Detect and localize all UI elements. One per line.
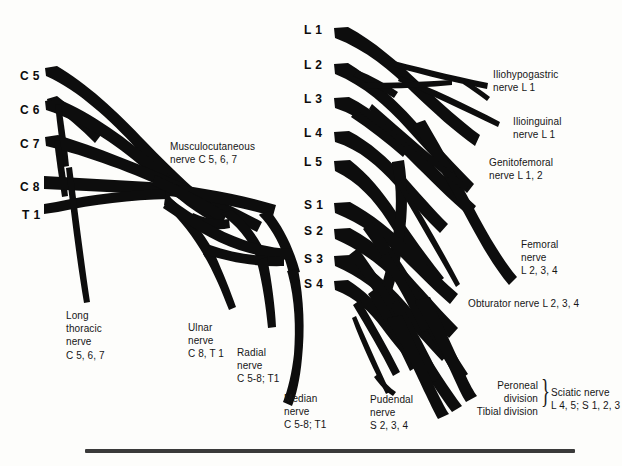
root-label-l5: L 5 (304, 155, 322, 169)
nerve-label-obturator: Obturator nerve L 2, 3, 4 (468, 297, 579, 310)
sciatic-tibial-division-label: Tibial division (444, 405, 538, 418)
nerve-label-iliohypogastric: Iliohypogastricnerve L 1 (493, 68, 558, 94)
sciatic-brace-icon: } (541, 374, 550, 408)
nerve-label-ilioinguinal: Ilioinguinalnerve L 1 (513, 115, 561, 141)
root-label-l2: L 2 (304, 58, 322, 72)
root-label-s3: S 3 (304, 252, 323, 266)
root-label-s4: S 4 (304, 277, 323, 291)
root-label-t1: T 1 (22, 208, 41, 222)
sciatic-nerve-label: Sciatic nerveL 4, 5; S 1, 2, 3 (551, 386, 620, 412)
root-label-l3: L 3 (304, 92, 322, 106)
nerve-label-ulnar: UlnarnerveC 8, T 1 (188, 321, 224, 361)
nerve-label-median: MediannerveC 5-8; T1 (284, 392, 326, 432)
nerve-label-long-thoracic: LongthoracicnerveC 5, 6, 7 (66, 309, 105, 362)
nerve-label-radial: RadialnerveC 5-8; T1 (237, 346, 279, 386)
nerve-label-genitofemoral: Genitofemoralnerve L 1, 2 (489, 156, 553, 182)
root-label-l1: L 1 (304, 23, 322, 37)
root-label-s2: S 2 (304, 224, 323, 238)
root-label-c5: C 5 (20, 69, 40, 83)
nerve-label-pudendal: PudendalnerveS 2, 3, 4 (370, 393, 413, 433)
sciatic-peroneal-division-label: Peronealdivision (464, 379, 538, 405)
plexus-figure: C 5 C 6 C 7 C 8 T 1 L 1 L 2 L 3 L 4 L 5 … (0, 0, 622, 466)
root-label-s1: S 1 (304, 198, 323, 212)
root-label-c7: C 7 (20, 137, 40, 151)
root-label-l4: L 4 (304, 126, 322, 140)
root-label-c8: C 8 (20, 180, 40, 194)
root-label-c6: C 6 (20, 103, 40, 117)
nerve-label-femoral: FemoralnerveL 2, 3, 4 (521, 238, 558, 278)
footer-divider (85, 449, 575, 453)
nerve-label-musculocutaneous: Musculocutaneousnerve C 5, 6, 7 (170, 140, 255, 166)
